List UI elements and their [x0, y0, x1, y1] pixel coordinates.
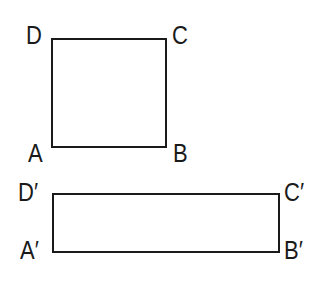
vertex-label-d: D [26, 23, 42, 48]
vertex-label-d-prime: D′ [18, 180, 38, 205]
vertex-label-a: A [28, 141, 43, 166]
vertex-label-b: B [173, 141, 188, 166]
square-abcd [51, 38, 167, 148]
vertex-label-b-prime: B′ [284, 238, 303, 263]
rectangle-a-prime-b-prime-c-prime-d-prime [52, 193, 280, 253]
vertex-label-c-prime: C′ [284, 180, 304, 205]
vertex-label-c: C [172, 23, 188, 48]
vertex-label-a-prime: A′ [20, 238, 39, 263]
